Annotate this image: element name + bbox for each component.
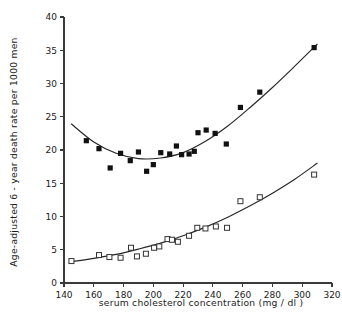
y-tick-label: 20 bbox=[46, 145, 58, 155]
data-point-filled-square bbox=[128, 158, 133, 163]
data-point-open-square bbox=[169, 237, 174, 242]
data-point-open-square bbox=[157, 244, 162, 249]
data-point-filled-square bbox=[195, 130, 200, 135]
data-point-filled-square bbox=[204, 127, 209, 132]
data-point-filled-square bbox=[136, 149, 141, 154]
data-point-filled-square bbox=[158, 150, 163, 155]
y-tick-label: 35 bbox=[46, 46, 57, 56]
data-point-open-square bbox=[257, 195, 262, 200]
y-tick-label: 5 bbox=[51, 245, 57, 255]
data-point-open-square bbox=[312, 172, 317, 177]
y-axis-title: Age-adjusted 6 - year death rate per 100… bbox=[8, 37, 19, 266]
data-point-filled-square bbox=[174, 143, 179, 148]
y-tick-label: 30 bbox=[46, 79, 58, 89]
y-tick-label: 10 bbox=[46, 212, 58, 222]
data-point-filled-square bbox=[118, 151, 123, 156]
data-point-filled-square bbox=[108, 165, 113, 170]
data-point-filled-square bbox=[186, 151, 191, 156]
data-point-filled-square bbox=[144, 169, 149, 174]
data-point-filled-square bbox=[257, 90, 262, 95]
data-point-filled-square bbox=[84, 138, 89, 143]
x-tick-label: 140 bbox=[55, 290, 72, 300]
data-point-open-square bbox=[143, 251, 148, 256]
chart-figure: 0510152025303540140160180200220240260280… bbox=[0, 0, 342, 323]
data-point-open-square bbox=[175, 239, 180, 244]
fit-curve-2 bbox=[71, 163, 317, 261]
data-point-open-square bbox=[213, 224, 218, 229]
axes: 0510152025303540140160180200220240260280… bbox=[46, 12, 341, 299]
y-tick-label: 0 bbox=[51, 278, 57, 288]
y-tick-label: 15 bbox=[46, 179, 57, 189]
data-point-open-square bbox=[225, 225, 230, 230]
data-point-filled-square bbox=[192, 149, 197, 154]
data-point-filled-square bbox=[312, 45, 317, 50]
y-tick-label: 40 bbox=[46, 12, 58, 22]
data-point-open-square bbox=[187, 233, 192, 238]
data-point-open-square bbox=[107, 255, 112, 260]
data-point-filled-square bbox=[224, 141, 229, 146]
data-point-filled-square bbox=[179, 152, 184, 157]
data-point-open-square bbox=[238, 199, 243, 204]
data-point-open-square bbox=[203, 226, 208, 231]
data-point-open-square bbox=[195, 225, 200, 230]
data-point-open-square bbox=[129, 245, 134, 250]
x-axis-title: serum cholesterol concentration (mg / dl… bbox=[99, 297, 304, 308]
y-tick-label: 25 bbox=[46, 112, 57, 122]
data-point-filled-square bbox=[151, 162, 156, 167]
data-point-filled-square bbox=[238, 105, 243, 110]
data-point-open-square bbox=[118, 255, 123, 260]
data-point-open-square bbox=[69, 259, 74, 264]
x-tick-label: 320 bbox=[323, 290, 340, 300]
data-point-filled-square bbox=[167, 151, 172, 156]
data-point-filled-square bbox=[213, 131, 218, 136]
data-point-open-square bbox=[134, 254, 139, 259]
fit-curve-1 bbox=[71, 44, 317, 159]
data-point-filled-square bbox=[96, 146, 101, 151]
scatter-plot: 0510152025303540140160180200220240260280… bbox=[0, 0, 342, 323]
data-point-open-square bbox=[96, 253, 101, 258]
data-markers bbox=[69, 45, 317, 264]
data-point-open-square bbox=[152, 245, 157, 250]
